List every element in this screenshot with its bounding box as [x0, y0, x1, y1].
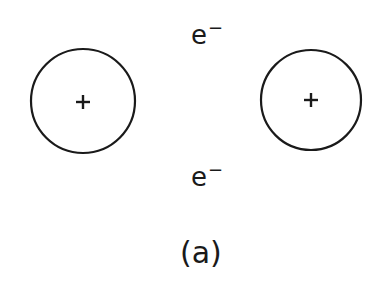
- electron-charge: −: [208, 17, 223, 38]
- figure-caption: (a): [180, 238, 222, 268]
- plus-icon: [76, 95, 90, 109]
- electron-symbol: e: [191, 162, 207, 192]
- electron-charge: −: [208, 159, 223, 180]
- top-electron-label: e−: [191, 19, 223, 48]
- right-nucleus: [261, 50, 361, 150]
- plus-icon: [304, 93, 318, 107]
- electron-symbol: e: [191, 20, 207, 50]
- bottom-electron-label: e−: [191, 161, 223, 190]
- left-nucleus: [31, 49, 135, 153]
